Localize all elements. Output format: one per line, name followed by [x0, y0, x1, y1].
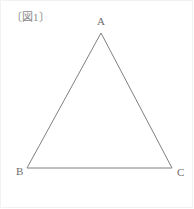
triangle-outline: [27, 33, 172, 168]
figure-canvas: 〔図1〕 A B C: [0, 0, 194, 209]
vertex-label-a: A: [97, 16, 105, 27]
vertex-label-b: B: [16, 166, 23, 177]
vertex-label-c: C: [177, 167, 184, 178]
triangle-diagram: [0, 0, 194, 209]
